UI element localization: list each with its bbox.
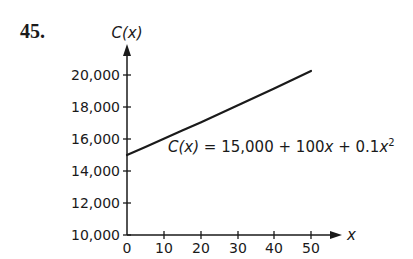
x-tick-label: 30 [229, 240, 247, 256]
equation-var: x [324, 138, 333, 156]
x-tick-label: 20 [192, 240, 210, 256]
y-tick-label: 12,000 [71, 195, 120, 211]
chart: 10,000 12,000 14,000 16,000 18,000 20,00… [0, 0, 413, 259]
x-tick-label: 50 [302, 240, 320, 256]
x-tick-label: 0 [123, 240, 132, 256]
equation-exponent: 2 [388, 137, 394, 148]
equation-constant: 15,000 [221, 138, 274, 156]
y-tick-label: 20,000 [71, 67, 120, 83]
x-tick-label: 10 [155, 240, 173, 256]
equation-plus: + [278, 138, 291, 156]
x-axis-label: x [346, 226, 356, 244]
equation-label: C(x) = 15,000 + 100x + 0.1x2 [168, 137, 395, 156]
equation-lhs: C(x) [168, 138, 199, 156]
y-tick-label: 16,000 [71, 131, 120, 147]
y-tick-label: 18,000 [71, 99, 120, 115]
equation-equals: = [204, 138, 217, 156]
equation-plus: + [338, 138, 351, 156]
y-tick-label: 10,000 [71, 227, 120, 243]
equation-var: x [379, 138, 388, 156]
x-tick-label: 40 [265, 240, 283, 256]
y-tick-label: 14,000 [71, 163, 120, 179]
x-axis-arrow-icon [330, 231, 342, 239]
equation-quad-coef: 0.1 [356, 138, 380, 156]
y-axis-label: C(x) [111, 24, 142, 42]
y-axis-arrow-icon [123, 44, 131, 56]
equation-linear-coef: 100 [296, 138, 325, 156]
